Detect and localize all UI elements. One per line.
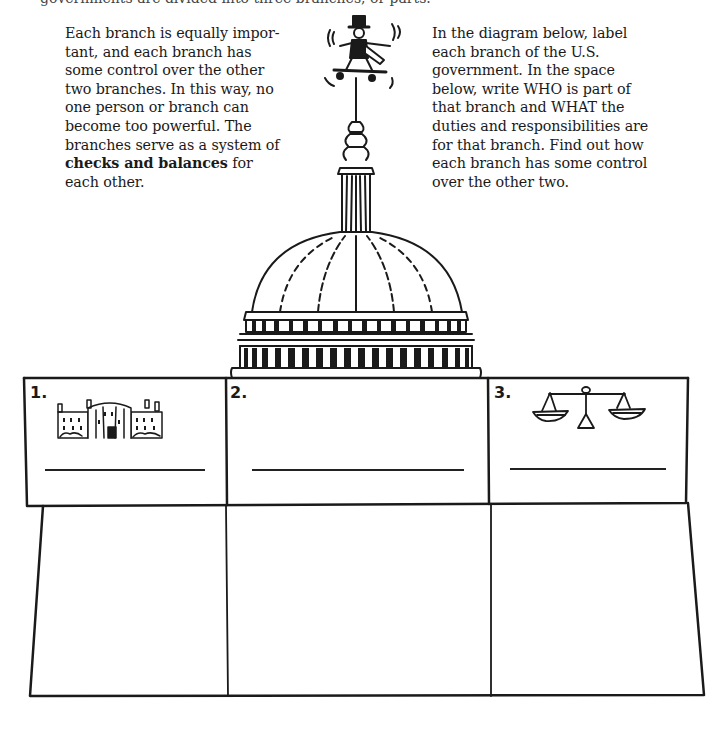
scales-of-justice-icon — [533, 387, 645, 428]
branch-1-label-line[interactable] — [45, 469, 205, 471]
branch-2-label-line[interactable] — [252, 469, 464, 471]
branch-3-label-line[interactable] — [510, 468, 666, 470]
branch-3-number: 3. — [494, 383, 511, 402]
branch-1-notes-area[interactable] — [45, 512, 220, 690]
branch-3-notes-area[interactable] — [497, 512, 692, 690]
uncle-sam-skateboard-icon — [325, 16, 400, 124]
branch-2-number: 2. — [230, 383, 247, 402]
capitol-dome-icon — [231, 232, 481, 378]
white-house-icon — [58, 400, 162, 438]
branch-1-number: 1. — [30, 383, 47, 402]
cupola — [338, 122, 374, 232]
branch-2-notes-area[interactable] — [233, 512, 485, 690]
